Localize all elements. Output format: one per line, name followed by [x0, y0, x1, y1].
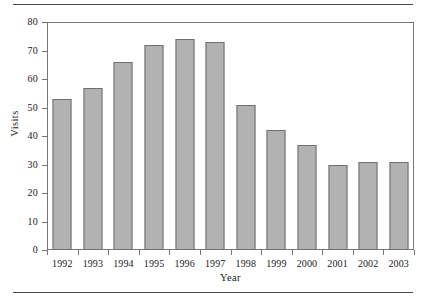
- bar: [145, 45, 164, 250]
- x-axis-tick-mark: [108, 250, 109, 255]
- x-axis-tick-mark: [47, 250, 48, 255]
- x-axis-tick-mark: [414, 250, 415, 255]
- y-axis-tick-label: 40: [28, 129, 38, 142]
- x-axis-tick-label: 1999: [266, 257, 286, 270]
- x-axis-tick-label: 2002: [358, 257, 378, 270]
- bar-slot: [169, 22, 200, 250]
- y-axis-tick-label: 30: [28, 158, 38, 171]
- x-axis-tick-mark: [231, 250, 232, 255]
- top-horizontal-rule: [13, 4, 413, 5]
- y-axis-tick-label: 20: [28, 186, 38, 199]
- bar: [206, 42, 225, 250]
- bar-slot: [47, 22, 78, 250]
- x-axis-tick-mark: [78, 250, 79, 255]
- x-axis-tick-label: 1993: [83, 257, 103, 270]
- x-axis-tick-mark: [353, 250, 354, 255]
- bar-slot: [383, 22, 414, 250]
- x-axis-tick-label: 2003: [389, 257, 409, 270]
- bar: [83, 88, 102, 250]
- x-axis-tick-label: 2000: [297, 257, 317, 270]
- x-axis-tick-label: 1995: [144, 257, 164, 270]
- bar: [328, 165, 347, 251]
- y-axis-title: Visits: [9, 94, 20, 154]
- y-axis-tick-label: 0: [33, 243, 38, 256]
- figure-container: 01020304050607080 Visits 199219931994199…: [0, 0, 426, 306]
- y-axis-tick-label: 50: [28, 101, 38, 114]
- bar: [114, 62, 133, 250]
- bar: [236, 105, 255, 250]
- x-axis-tick-mark: [322, 250, 323, 255]
- y-axis-tick-label: 80: [28, 15, 38, 28]
- bar: [389, 162, 408, 250]
- x-axis-tick-label: 1998: [236, 257, 256, 270]
- y-axis-tick-label: 70: [28, 44, 38, 57]
- bar-slot: [78, 22, 109, 250]
- bar-slot: [231, 22, 262, 250]
- x-axis-tick-mark: [383, 250, 384, 255]
- x-axis-tick-label: 2001: [327, 257, 347, 270]
- x-axis-tick-mark: [261, 250, 262, 255]
- bar-series: [47, 22, 414, 250]
- x-axis-tick-mark: [292, 250, 293, 255]
- bar-slot: [261, 22, 292, 250]
- x-axis-tick-mark: [139, 250, 140, 255]
- x-axis: 1992199319941995199619971998199920002001…: [47, 250, 414, 290]
- bar-slot: [200, 22, 231, 250]
- bar: [267, 130, 286, 250]
- x-axis-tick-mark: [169, 250, 170, 255]
- bar: [53, 99, 72, 250]
- bottom-horizontal-rule: [13, 292, 413, 293]
- x-axis-tick-label: 1996: [174, 257, 194, 270]
- y-axis: 01020304050607080: [0, 0, 47, 272]
- x-axis-tick-mark: [200, 250, 201, 255]
- y-axis-tick-label: 60: [28, 72, 38, 85]
- x-axis-tick-label: 1992: [52, 257, 72, 270]
- bar: [175, 39, 194, 250]
- x-axis-title: Year: [47, 272, 414, 283]
- y-axis-tick-label: 10: [28, 215, 38, 228]
- bar: [359, 162, 378, 250]
- bar-slot: [322, 22, 353, 250]
- bar: [297, 145, 316, 250]
- x-axis-tick-label: 1994: [113, 257, 133, 270]
- bar-slot: [108, 22, 139, 250]
- bar-slot: [353, 22, 384, 250]
- bar-slot: [139, 22, 170, 250]
- x-axis-tick-label: 1997: [205, 257, 225, 270]
- bar-slot: [292, 22, 323, 250]
